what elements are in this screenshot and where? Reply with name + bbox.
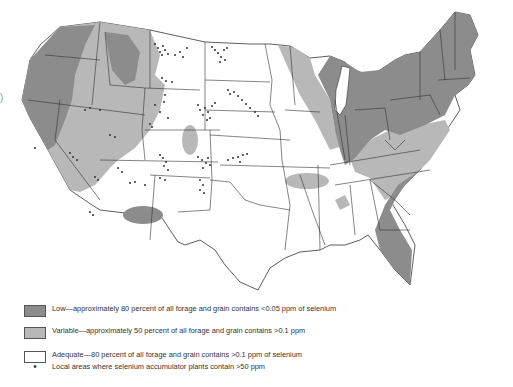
variable-swatch [24,327,46,339]
legend-item-variable: Variable—approximately 50 percent of all… [24,326,432,339]
us-selenium-map [0,0,513,310]
legend-item-accumulator: • Local areas where selenium accumulator… [24,362,432,371]
low-swatch [24,305,46,317]
legend-label-variable: Variable—approximately 50 percent of all… [52,326,432,335]
legend-label-low: Low—approximately 80 percent of all fora… [52,304,432,313]
legend-label-accumulator: Local areas where selenium accumulator p… [52,362,432,371]
dot-icon: • [24,362,46,371]
legend-label-adequate: Adequate—80 percent of all forage and gr… [52,350,432,359]
legend-item-low: Low—approximately 80 percent of all fora… [24,304,432,317]
